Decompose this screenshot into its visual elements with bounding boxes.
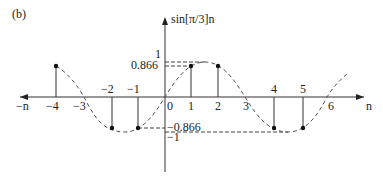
- svg-text:−3: −3: [73, 99, 86, 113]
- y-axis-up-arrow-icon: [162, 17, 168, 25]
- stem-plot: (b) sin[π/3]n n −n 1 0.866 −0.866 −1 −4 …: [0, 0, 383, 180]
- svg-text:−1: −1: [127, 82, 140, 96]
- svg-text:−2: −2: [101, 82, 114, 96]
- svg-text:0: 0: [167, 99, 173, 113]
- x-axis-neg-label: −n: [16, 99, 29, 113]
- y-tick-neg-one: −1: [167, 130, 180, 144]
- y-tick-0866: 0.866: [131, 58, 158, 72]
- svg-text:4: 4: [271, 82, 277, 96]
- x-axis-label: n: [366, 99, 372, 113]
- x-axis-right-arrow-icon: [356, 94, 364, 100]
- svg-text:3: 3: [243, 99, 249, 113]
- svg-text:−4: −4: [46, 99, 59, 113]
- svg-text:2: 2: [215, 99, 221, 113]
- svg-text:5: 5: [300, 82, 306, 96]
- panel-label: (b): [12, 7, 26, 21]
- svg-text:6: 6: [328, 99, 334, 113]
- svg-text:1: 1: [188, 99, 194, 113]
- y-axis-label: sin[π/3]n: [171, 12, 214, 26]
